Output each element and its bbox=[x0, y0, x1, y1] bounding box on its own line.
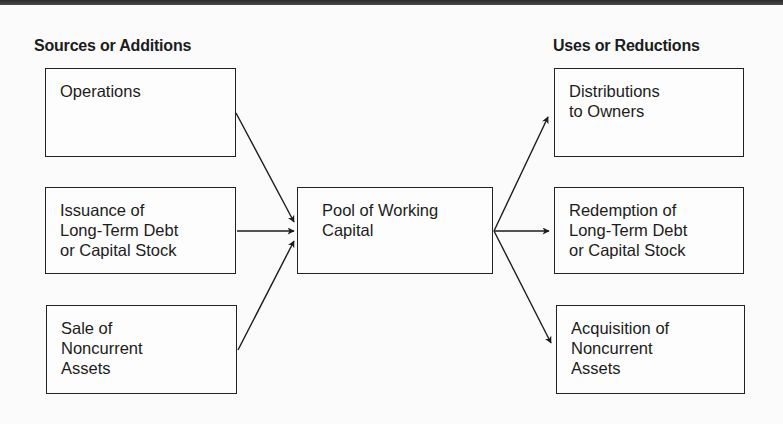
arrow-sale-to-pool bbox=[238, 241, 294, 350]
flow-arrows bbox=[0, 0, 783, 424]
arrow-pool-to-distributions bbox=[494, 117, 548, 231]
arrow-pool-to-acquisition bbox=[494, 231, 551, 343]
arrow-operations-to-pool bbox=[236, 113, 294, 222]
